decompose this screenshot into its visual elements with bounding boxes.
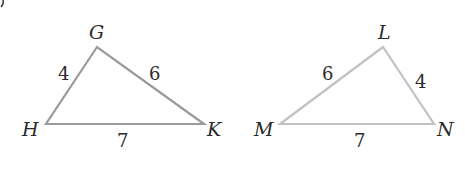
side-length-gh: 4 <box>58 63 69 84</box>
triangle-ghk: G H K 4 6 7 <box>21 21 223 151</box>
triangle-ghk-shape <box>46 47 204 124</box>
side-length-gk: 6 <box>149 63 160 84</box>
triangle-lmn-shape <box>280 47 434 124</box>
side-length-mn: 7 <box>354 130 365 151</box>
side-length-ln: 4 <box>415 71 426 92</box>
vertex-label-g: G <box>89 21 104 43</box>
vertex-label-m: M <box>253 118 274 140</box>
vertex-label-l: L <box>377 21 391 43</box>
vertex-label-h: H <box>21 118 39 140</box>
side-length-hk: 7 <box>117 130 128 151</box>
triangles-figure: G H K 4 6 7 L M N 6 4 7 <box>0 0 465 181</box>
corner-mark <box>1 0 3 7</box>
vertex-label-k: K <box>206 118 223 140</box>
vertex-label-n: N <box>436 118 455 140</box>
triangle-lmn: L M N 6 4 7 <box>253 21 455 151</box>
side-length-lm: 6 <box>322 63 333 84</box>
